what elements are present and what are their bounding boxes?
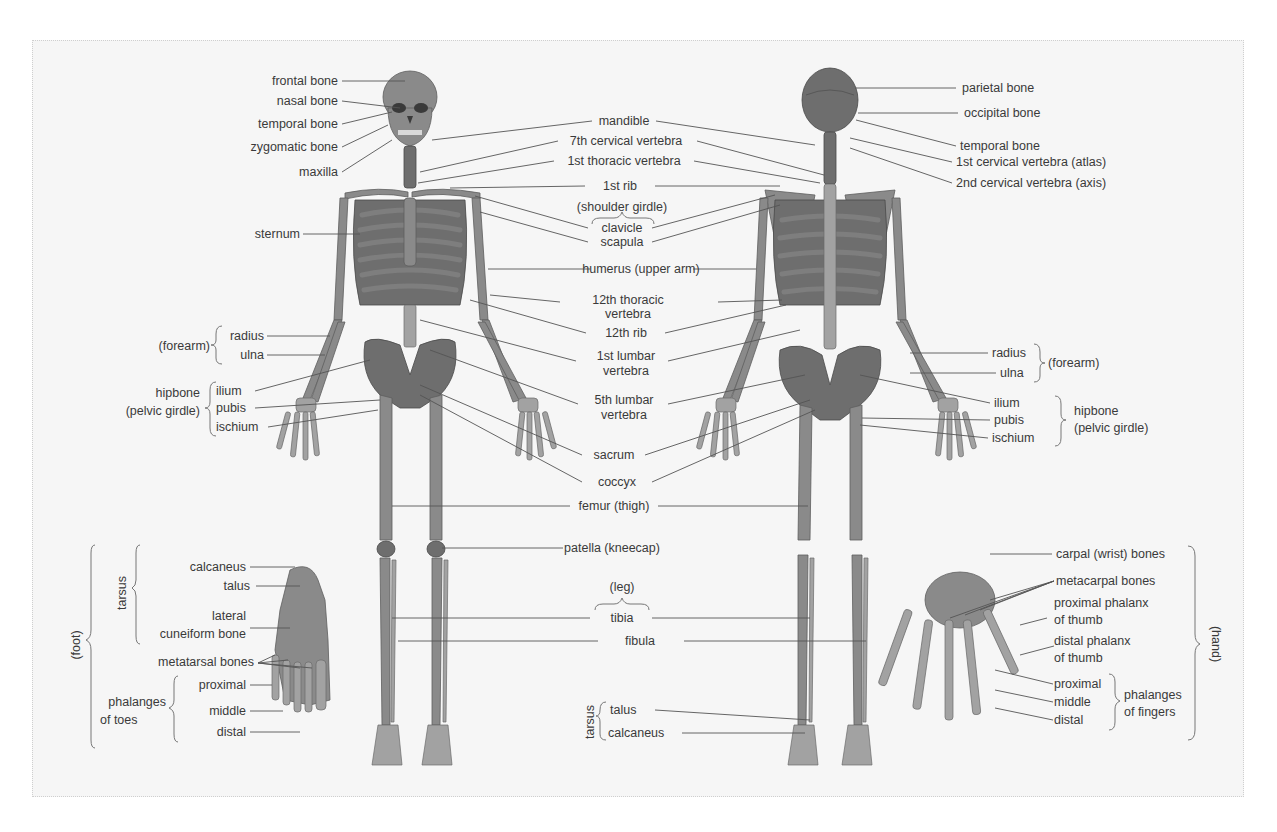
label-ilium-left: ilium: [216, 384, 242, 398]
label-phalanges-fingers-line2: of fingers: [1124, 705, 1175, 719]
label-talus-posterior: talus: [610, 703, 636, 717]
label-radius-left: radius: [230, 329, 264, 343]
label-hand: (hand): [1209, 626, 1223, 662]
label-humerus: humerus (upper arm): [582, 262, 699, 276]
label-hipbone-right: hipbone: [1074, 404, 1119, 418]
label-metacarpal: metacarpal bones: [1056, 574, 1155, 588]
posterior-skeleton: [696, 68, 976, 765]
label-phalanges-fingers-line1: phalanges: [1124, 688, 1182, 702]
label-calcaneus-posterior: calcaneus: [608, 726, 664, 740]
label-l1-line1: 1st lumbar: [597, 349, 655, 363]
label-ulna-left: ulna: [240, 348, 264, 362]
label-ilium-right: ilium: [994, 396, 1020, 410]
label-prox-thumb-line1: proximal phalanx: [1054, 596, 1149, 610]
label-zygomatic-bone: zygomatic bone: [250, 140, 338, 154]
label-pubis-left: pubis: [216, 401, 246, 415]
label-rib12: 12th rib: [605, 326, 647, 340]
label-phalanges-toes-line2: of toes: [100, 713, 138, 727]
label-tarsus-foot: tarsus: [115, 576, 129, 610]
label-foot: (foot): [69, 630, 83, 659]
label-middle-toe: middle: [209, 704, 246, 718]
label-pelvic-girdle-right: (pelvic girdle): [1074, 421, 1148, 435]
sternum-bone: [404, 198, 416, 266]
label-c7: 7th cervical vertebra: [570, 134, 683, 148]
label-nasal-bone: nasal bone: [277, 94, 338, 108]
label-talus-foot: talus: [224, 579, 250, 593]
label-radius-right: radius: [992, 346, 1026, 360]
label-axis: 2nd cervical vertebra (axis): [956, 176, 1106, 190]
foot-detail: [272, 567, 330, 712]
posterior-skull: [802, 68, 858, 132]
label-pelvic-girdle-left: (pelvic girdle): [126, 404, 200, 418]
label-temporal-bone-anterior: temporal bone: [258, 117, 338, 131]
label-metatarsal: metatarsal bones: [158, 655, 254, 669]
label-patella: patella (kneecap): [564, 541, 660, 555]
label-tarsus-posterior: tarsus: [583, 705, 597, 739]
label-hipbone-left: hipbone: [156, 386, 201, 400]
label-middle-finger: middle: [1054, 695, 1091, 709]
label-scapula: scapula: [600, 235, 643, 249]
label-lateral-line1: lateral: [212, 609, 246, 623]
label-proximal-finger: proximal: [1054, 677, 1101, 691]
label-l5-line2: vertebra: [601, 408, 647, 422]
skeleton-diagram: frontal bone nasal bone temporal bone zy…: [0, 0, 1277, 832]
label-pubis-right: pubis: [994, 413, 1024, 427]
label-distal-finger: distal: [1054, 713, 1083, 727]
label-phalanges-toes-line1: phalanges: [108, 695, 166, 709]
label-frontal-bone: frontal bone: [272, 74, 338, 88]
label-occipital-bone: occipital bone: [964, 106, 1040, 120]
label-mandible: mandible: [599, 114, 650, 128]
label-distal-toe: distal: [217, 725, 246, 739]
hand-detail: [878, 572, 1019, 720]
label-coccyx: coccyx: [598, 475, 637, 489]
label-t1: 1st thoracic vertebra: [567, 154, 680, 168]
label-lateral-line2: cuneiform bone: [160, 627, 246, 641]
label-shoulder-girdle: (shoulder girdle): [577, 200, 667, 214]
label-calcaneus-foot: calcaneus: [190, 560, 246, 574]
label-fibula: fibula: [625, 634, 655, 648]
label-temporal-bone-posterior: temporal bone: [960, 139, 1040, 153]
label-prox-thumb-line2: of thumb: [1054, 613, 1103, 627]
label-forearm-left: (forearm): [159, 339, 210, 353]
label-parietal-bone: parietal bone: [962, 81, 1034, 95]
label-clavicle: clavicle: [602, 221, 643, 235]
label-forearm-right: (forearm): [1048, 356, 1099, 370]
label-tibia: tibia: [611, 611, 634, 625]
posterior-pelvis: [779, 346, 881, 420]
label-t12-line2: vertebra: [605, 307, 651, 321]
label-femur: femur (thigh): [579, 499, 650, 513]
label-dist-thumb-line2: of thumb: [1054, 651, 1103, 665]
label-dist-thumb-line1: distal phalanx: [1054, 634, 1131, 648]
label-leg: (leg): [609, 580, 634, 594]
label-ischium-right: ischium: [992, 431, 1034, 445]
label-atlas: 1st cervical vertebra (atlas): [956, 155, 1106, 169]
label-carpal: carpal (wrist) bones: [1056, 547, 1165, 561]
label-ulna-right: ulna: [1000, 366, 1024, 380]
label-l5-line1: 5th lumbar: [594, 393, 653, 407]
label-sternum: sternum: [255, 227, 300, 241]
label-ischium-left: ischium: [216, 420, 258, 434]
anterior-ribcage: [353, 198, 466, 305]
label-l1-line2: vertebra: [603, 364, 649, 378]
labels: frontal bone nasal bone temporal bone zy…: [69, 74, 1223, 740]
label-proximal-toe: proximal: [199, 678, 246, 692]
label-maxilla: maxilla: [299, 165, 338, 179]
label-t12-line1: 12th thoracic: [592, 293, 664, 307]
label-sacrum: sacrum: [594, 448, 635, 462]
label-rib1: 1st rib: [603, 179, 637, 193]
